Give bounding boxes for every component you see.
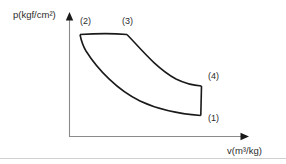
pv-diagram-figure: p(kgf/cm²) v(m³/kg) (2) (3) (4) (1) xyxy=(0,0,286,164)
state-label-2: (2) xyxy=(80,17,91,26)
x-axis-arrow-icon xyxy=(241,133,250,140)
pv-diagram-canvas xyxy=(0,0,286,164)
y-axis-title: p(kgf/cm²) xyxy=(13,10,56,20)
process-path-4-to-1 xyxy=(201,86,202,116)
x-axis-title: v(m³/kg) xyxy=(227,146,262,156)
state-label-4: (4) xyxy=(208,72,219,81)
y-axis-arrow-icon xyxy=(66,12,73,21)
process-path-2-to-3 xyxy=(80,34,127,35)
process-path-1-to-2 xyxy=(80,35,201,116)
process-path-3-to-4 xyxy=(127,35,202,87)
state-label-1: (1) xyxy=(208,114,219,123)
state-label-3: (3) xyxy=(122,17,133,26)
